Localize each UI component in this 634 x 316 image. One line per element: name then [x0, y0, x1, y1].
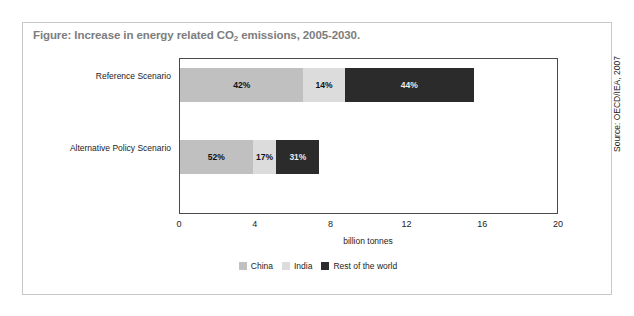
- bar-reference-scenario[interactable]: 42% 14% 44%: [180, 68, 557, 102]
- x-tick-4: 4: [252, 219, 257, 229]
- legend-item-india[interactable]: India: [282, 261, 312, 271]
- x-tick-0: 0: [176, 219, 181, 229]
- bar-segment-label-rest-of-the-world: 31%: [289, 152, 306, 162]
- category-label-alternative-policy-scenario: Alternative Policy Scenario: [70, 143, 171, 153]
- legend-swatch-icon-rest-of-the-world: [321, 262, 329, 270]
- bar-segment-label-india: 14%: [315, 80, 332, 90]
- chart-area: Reference Scenario Alternative Policy Sc…: [23, 23, 613, 296]
- bar-segment-india[interactable]: 17%: [253, 140, 277, 174]
- bar-alternative-policy-scenario[interactable]: 52% 17% 31%: [180, 140, 557, 174]
- x-tick-20: 20: [553, 219, 563, 229]
- figure-frame: Figure: Increase in energy related CO2 e…: [22, 22, 612, 295]
- bar-segment-china[interactable]: 42%: [180, 68, 303, 102]
- bar-segment-label-rest-of-the-world: 44%: [401, 80, 418, 90]
- bar-segment-rest-of-the-world[interactable]: 44%: [345, 68, 474, 102]
- legend-item-china[interactable]: China: [239, 261, 273, 271]
- bar-segment-label-china: 42%: [233, 80, 250, 90]
- bar-segment-china[interactable]: 52%: [180, 140, 253, 174]
- plot-area: 42% 14% 44% 52% 17% 31%: [179, 58, 558, 214]
- legend-label-china: China: [251, 261, 273, 271]
- x-axis-title: billion tonnes: [343, 236, 393, 246]
- bar-segment-label-india: 17%: [256, 152, 273, 162]
- legend-swatch-icon-china: [239, 262, 247, 270]
- category-label-reference-scenario: Reference Scenario: [96, 71, 171, 81]
- legend-label-india: India: [294, 261, 312, 271]
- bar-segment-india[interactable]: 14%: [303, 68, 344, 102]
- legend-label-rest-of-the-world: Rest of the world: [333, 261, 397, 271]
- x-tick-12: 12: [401, 219, 411, 229]
- chart-legend: China India Rest of the world: [23, 261, 613, 271]
- x-tick-16: 16: [477, 219, 487, 229]
- source-note: Source: OECD/IEA, 2007: [612, 56, 622, 152]
- x-tick-8: 8: [328, 219, 333, 229]
- bar-segment-rest-of-the-world[interactable]: 31%: [276, 140, 319, 174]
- bar-segment-label-china: 52%: [208, 152, 225, 162]
- legend-swatch-icon-india: [282, 262, 290, 270]
- legend-item-rest-of-the-world[interactable]: Rest of the world: [321, 261, 397, 271]
